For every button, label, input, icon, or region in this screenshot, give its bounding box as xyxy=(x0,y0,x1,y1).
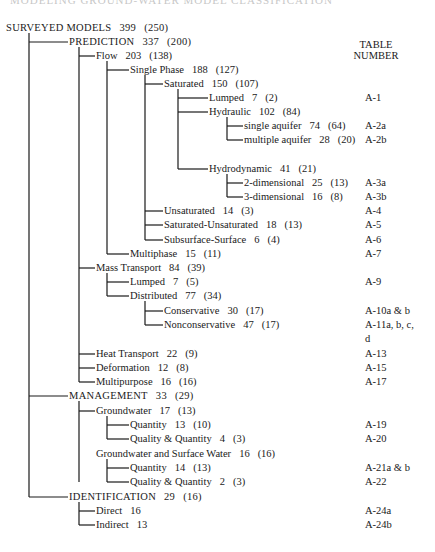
node-count: 399 xyxy=(119,22,136,33)
tree-node-two-dim: 2-dimensional25(13) xyxy=(244,177,348,189)
table-number-nonconservative-cont: d xyxy=(365,333,370,345)
table-number-sat-unsat: A-5 xyxy=(365,219,381,231)
tree-node-hydraulic: Hydraulic102(84) xyxy=(209,106,300,118)
table-number-direct: A-24a xyxy=(365,505,391,517)
node-label: multiple aquifer xyxy=(244,134,311,145)
node-subcount: (64) xyxy=(328,120,346,131)
node-label: SURVEYED MODELS xyxy=(6,22,111,33)
tree-node-three-dim: 3-dimensional16(8) xyxy=(244,191,343,203)
node-subcount: (21) xyxy=(299,163,317,174)
tree-node-heat-transport: Heat Transport22(9) xyxy=(96,348,197,360)
table-number-gwsw-quality-quantity: A-22 xyxy=(365,476,387,488)
tree-node-deformation: Deformation12(8) xyxy=(96,362,188,374)
node-count: 7 xyxy=(173,276,178,287)
tree-node-gw-quality-quantity: Quality & Quantity4(3) xyxy=(130,433,245,445)
node-label: 2-dimensional xyxy=(244,177,304,188)
node-label: Multipurpose xyxy=(96,376,153,387)
tree-node-nonconservative: Nonconservative47(17) xyxy=(164,319,279,331)
node-subcount: (11) xyxy=(204,248,221,259)
node-label: Mass Transport xyxy=(96,262,161,273)
node-count: 7 xyxy=(252,92,257,103)
node-label: Indirect xyxy=(96,519,129,530)
table-number-unsaturated: A-4 xyxy=(365,205,381,217)
tree-node-sat-unsat: Saturated-Unsaturated18(13) xyxy=(164,219,302,231)
node-count: 30 xyxy=(227,305,238,316)
tree-node-unsaturated: Unsaturated14(3) xyxy=(164,205,253,217)
tree-node-indirect: Indirect13 xyxy=(96,519,147,531)
node-label: Lumped xyxy=(209,92,244,103)
node-subcount: (16) xyxy=(179,376,197,387)
node-subcount: (4) xyxy=(267,234,279,245)
node-label: Direct xyxy=(96,505,122,516)
node-count: 74 xyxy=(309,120,320,131)
tree-node-direct: Direct16 xyxy=(96,505,141,517)
node-count: 6 xyxy=(254,234,259,245)
table-number-single-aquifer: A-2a xyxy=(365,120,386,132)
node-count: 2 xyxy=(220,476,225,487)
node-label: 3-dimensional xyxy=(244,191,304,202)
tree-node-mass-transport: Mass Transport84(39) xyxy=(96,262,205,274)
node-label: MANAGEMENT xyxy=(69,390,148,401)
node-subcount: (13) xyxy=(193,462,211,473)
tree-node-multiple-aquifer: multiple aquifer28(20) xyxy=(244,134,355,146)
node-label: Flow xyxy=(96,50,118,61)
table-number-deformation: A-15 xyxy=(365,362,387,374)
node-label: Saturated xyxy=(164,78,204,89)
table-number-subsurface-surface: A-6 xyxy=(365,234,381,246)
node-subcount: (13) xyxy=(178,405,196,416)
node-count: 47 xyxy=(243,319,254,330)
node-count: 16 xyxy=(239,448,250,459)
node-label: single aquifer xyxy=(244,120,301,131)
node-count: 77 xyxy=(185,290,196,301)
tree-node-conservative: Conservative30(17) xyxy=(164,305,263,317)
node-subcount: (20) xyxy=(338,134,356,145)
table-number-multipurpose: A-17 xyxy=(365,376,387,388)
node-label: Quantity xyxy=(130,419,167,430)
node-count: 188 xyxy=(192,64,208,75)
node-count: 13 xyxy=(175,419,186,430)
node-count: 15 xyxy=(185,248,196,259)
tree-node-single-phase: Single Phase188(127) xyxy=(130,64,238,76)
node-subcount: (34) xyxy=(204,290,222,301)
node-subcount: (127) xyxy=(216,64,239,75)
node-subcount: (13) xyxy=(284,219,302,230)
node-label: Deformation xyxy=(96,362,150,373)
node-subcount: (16) xyxy=(258,448,276,459)
tree-node-gw-surface-water: Groundwater and Surface Water16(16) xyxy=(96,448,275,460)
node-count: 16 xyxy=(161,376,172,387)
tree-node-hydrodynamic: Hydrodynamic41(21) xyxy=(209,163,316,175)
table-number-lumped-mass: A-9 xyxy=(365,276,381,288)
node-subcount: (29) xyxy=(175,390,194,401)
tree-node-single-aquifer: single aquifer74(64) xyxy=(244,120,345,132)
node-count: 337 xyxy=(142,36,159,47)
table-number-gw-quantity: A-19 xyxy=(365,419,387,431)
node-count: 33 xyxy=(156,390,167,401)
table-number-multiple-aquifer: A-2b xyxy=(365,134,387,146)
node-subcount: (13) xyxy=(331,177,349,188)
node-label: PREDICTION xyxy=(69,36,134,47)
node-subcount: (3) xyxy=(233,433,245,444)
node-subcount: (16) xyxy=(183,491,202,502)
node-subcount: (8) xyxy=(331,191,343,202)
node-count: 16 xyxy=(312,191,323,202)
node-label: Quality & Quantity xyxy=(130,433,212,444)
node-subcount: (10) xyxy=(193,419,211,430)
node-count: 22 xyxy=(167,348,178,359)
node-count: 18 xyxy=(266,219,277,230)
node-subcount: (3) xyxy=(241,205,253,216)
node-count: 4 xyxy=(220,433,225,444)
node-subcount: (8) xyxy=(176,362,188,373)
table-number-lumped-flow: A-1 xyxy=(365,92,381,104)
node-label: Subsurface-Surface xyxy=(164,234,246,245)
node-count: 25 xyxy=(312,177,323,188)
tree-node-lumped-flow: Lumped7(2) xyxy=(209,92,278,104)
tree-node-surveyed: SURVEYED MODELS399(250) xyxy=(6,22,168,34)
node-count: 41 xyxy=(280,163,291,174)
node-subcount: (3) xyxy=(233,476,245,487)
node-label: Quality & Quantity xyxy=(130,476,212,487)
node-label: Groundwater and Surface Water xyxy=(96,448,231,459)
node-count: 28 xyxy=(319,134,330,145)
node-count: 14 xyxy=(175,462,186,473)
tree-node-management: MANAGEMENT33(29) xyxy=(69,390,194,402)
tree-node-distributed: Distributed77(34) xyxy=(130,290,221,302)
